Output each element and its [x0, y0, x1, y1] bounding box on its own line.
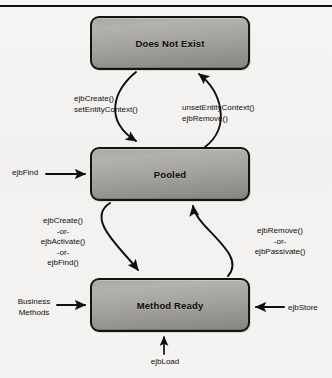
- state-diagram-canvas: Does Not Exist Pooled Method Ready ejbCr…: [0, 0, 332, 378]
- state-label-pooled: Pooled: [154, 169, 187, 180]
- edge-label-ejbfind: ejbFind: [12, 168, 38, 179]
- state-node-does-not-exist[interactable]: Does Not Exist: [90, 16, 250, 70]
- state-node-pooled[interactable]: Pooled: [90, 147, 250, 201]
- edge-label-unset-remove: unsetEntityContext() ejbRemove(): [182, 103, 254, 124]
- edge-label-business-methods: Business Methods: [11, 297, 57, 318]
- transition-arrow-create-activate-find: [101, 203, 138, 270]
- state-node-method-ready[interactable]: Method Ready: [90, 278, 250, 332]
- state-label-method-ready: Method Ready: [137, 300, 204, 311]
- edge-label-create-activate-find: ejbCreate() -or- ejbActivate() -or- ejbF…: [26, 216, 100, 269]
- edge-label-remove-passivate: ejbRemove() -or- ejbPassivate(): [238, 226, 322, 258]
- edge-label-ejbload: ejbLoad: [140, 357, 190, 368]
- edge-label-create-setcontext: ejbCreate() setEntityContext(): [74, 94, 138, 115]
- state-label-does-not-exist: Does Not Exist: [135, 38, 204, 49]
- edge-label-ejbstore: ejbStore: [288, 303, 318, 314]
- transition-arrow-remove-passivate: [193, 206, 233, 276]
